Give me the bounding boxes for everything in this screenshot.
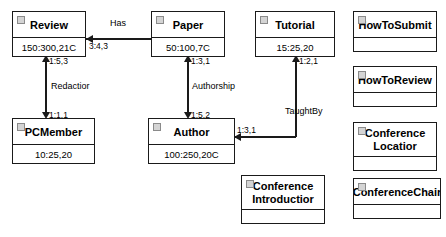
edge-redaction-label: Redactior bbox=[51, 81, 90, 91]
box-marker-icon bbox=[153, 123, 161, 131]
class-title-review: Review bbox=[13, 12, 85, 38]
class-box-howtosubmit[interactable]: HowToSubmit bbox=[353, 11, 437, 52]
class-box-pcmember[interactable]: PCMember 10:25,20 bbox=[12, 118, 95, 164]
class-attributes-pcmember: 10:25,20 bbox=[13, 145, 94, 163]
class-name-conferencelocation-line1: Conference bbox=[365, 127, 426, 140]
class-title-tutorial: Tutorial bbox=[256, 12, 334, 38]
edge-redaction-multiplicity-target: 1:5,3 bbox=[49, 56, 68, 66]
class-name-review: Review bbox=[30, 19, 68, 31]
class-title-conferencelocation: Conference Locatior bbox=[354, 123, 436, 157]
edge-taughtby-line-vertical bbox=[295, 57, 297, 137]
class-attributes-conferenceintroduction bbox=[242, 210, 324, 225]
class-attributes-howtosubmit bbox=[354, 38, 436, 53]
edge-has-label: Has bbox=[110, 18, 126, 28]
edge-has-multiplicity-source: 3:4,3 bbox=[89, 41, 108, 51]
box-marker-icon bbox=[156, 16, 164, 24]
edge-authorship-label: Authorship bbox=[192, 81, 235, 91]
class-attributes-text: 15:25,20 bbox=[277, 42, 314, 53]
class-name-conferenceintroduction-line1: Conference bbox=[253, 180, 314, 193]
edge-taughtby-multiplicity-target: 1:2,1 bbox=[299, 56, 318, 66]
class-attributes-paper: 50:100,7C bbox=[152, 38, 224, 56]
diagram-canvas: Has 3:4,3 1:5,3 Redactior 1:1,1 1:3,1 Au… bbox=[0, 0, 446, 237]
class-attributes-author: 100:250,20C bbox=[149, 145, 234, 163]
class-attributes-tutorial: 15:25,20 bbox=[256, 38, 334, 56]
class-title-pcmember: PCMember bbox=[13, 119, 94, 145]
class-name-paper: Paper bbox=[173, 19, 204, 31]
edge-taughtby-multiplicity-source: 1:3,1 bbox=[237, 125, 256, 135]
edge-taughtby-line-horizontal bbox=[235, 136, 296, 138]
box-marker-icon bbox=[358, 183, 366, 191]
class-attributes-conferencelocation bbox=[354, 157, 436, 172]
box-marker-icon bbox=[246, 180, 254, 188]
box-marker-icon bbox=[358, 16, 366, 24]
class-box-howtoreview[interactable]: HowToReview bbox=[353, 66, 437, 107]
class-attributes-text: 100:250,20C bbox=[164, 149, 218, 160]
class-attributes-review: 150:300,21C bbox=[13, 38, 85, 56]
class-box-tutorial[interactable]: Tutorial 15:25,20 bbox=[255, 11, 335, 57]
class-title-howtoreview: HowToReview bbox=[354, 67, 436, 93]
class-title-howtosubmit: HowToSubmit bbox=[354, 12, 436, 38]
class-name-conferencelocation-line2: Locatior bbox=[373, 140, 416, 153]
class-name-conferenceintroduction-line2: Introductior bbox=[252, 193, 314, 206]
class-box-conferencechair[interactable]: ConferenceChair bbox=[353, 178, 441, 219]
class-box-review[interactable]: Review 150:300,21C bbox=[12, 11, 86, 57]
edge-authorship-multiplicity-target: 1:3,1 bbox=[191, 56, 210, 66]
class-title-author: Author bbox=[149, 119, 234, 145]
box-marker-icon bbox=[17, 16, 25, 24]
edge-taughtby-label: TaughtBy bbox=[285, 106, 323, 116]
class-title-paper: Paper bbox=[152, 12, 224, 38]
class-name-pcmember: PCMember bbox=[25, 126, 82, 138]
class-attributes-text: 150:300,21C bbox=[22, 42, 76, 53]
box-marker-icon bbox=[260, 16, 268, 24]
class-title-conferenceintroduction: Conference Introductior bbox=[242, 176, 324, 210]
class-attributes-text: 10:25,20 bbox=[35, 149, 72, 160]
class-box-paper[interactable]: Paper 50:100,7C bbox=[151, 11, 225, 57]
class-attributes-conferencechair bbox=[354, 205, 440, 220]
edge-redaction-line bbox=[45, 57, 47, 117]
class-name-howtosubmit: HowToSubmit bbox=[358, 19, 431, 31]
class-box-conferenceintroduction[interactable]: Conference Introductior bbox=[241, 175, 325, 224]
class-box-author[interactable]: Author 100:250,20C bbox=[148, 118, 235, 164]
class-name-conferencechair: ConferenceChair bbox=[354, 186, 440, 198]
box-marker-icon bbox=[17, 123, 25, 131]
class-box-conferencelocation[interactable]: Conference Locatior bbox=[353, 122, 437, 171]
box-marker-icon bbox=[358, 71, 366, 79]
class-name-tutorial: Tutorial bbox=[275, 19, 315, 31]
class-title-conferencechair: ConferenceChair bbox=[354, 179, 440, 205]
class-attributes-howtoreview bbox=[354, 93, 436, 108]
class-name-howtoreview: HowToReview bbox=[358, 74, 432, 86]
edge-authorship-line bbox=[187, 57, 189, 117]
edge-has-line bbox=[86, 38, 158, 40]
box-marker-icon bbox=[358, 127, 366, 135]
class-name-author: Author bbox=[173, 126, 209, 138]
class-attributes-text: 50:100,7C bbox=[166, 42, 210, 53]
